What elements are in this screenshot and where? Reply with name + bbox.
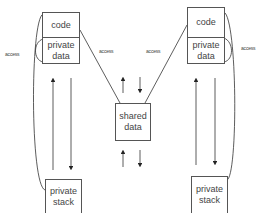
- shared-left-access-label: access: [99, 48, 113, 54]
- right-private-stack-box: private stack: [191, 176, 228, 213]
- right-shared-link: [145, 25, 187, 103]
- right-access-label: access: [241, 45, 255, 51]
- left-code-label: code: [51, 20, 71, 31]
- shared-right-access-label: access: [146, 48, 160, 54]
- right-data-access-arc: [224, 38, 232, 62]
- right-private-stack-label: private stack: [196, 184, 223, 206]
- left-private-data-label: private data: [47, 40, 74, 62]
- shared-data-box: shared data: [115, 103, 151, 141]
- left-private-data-box: private data: [42, 37, 80, 64]
- right-private-data-box: private data: [187, 37, 225, 64]
- left-private-stack-label: private stack: [50, 186, 77, 208]
- right-code-access-arc: [224, 12, 235, 180]
- right-private-data-label: private data: [192, 40, 219, 62]
- left-shared-link: [80, 30, 120, 103]
- right-code-box: code: [187, 7, 225, 38]
- shared-data-label: shared data: [119, 111, 147, 133]
- left-private-stack-box: private stack: [45, 179, 82, 213]
- right-code-label: code: [196, 17, 216, 28]
- left-access-label: access: [5, 51, 19, 57]
- left-code-box: code: [42, 12, 80, 38]
